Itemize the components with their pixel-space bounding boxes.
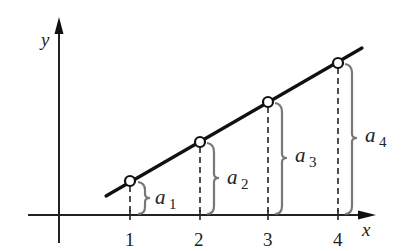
svg-text:a: a xyxy=(155,185,166,209)
arithmetic-sequence-diagram: y x 1 2 3 4 a 1 a xyxy=(0,0,402,251)
svg-text:4: 4 xyxy=(379,134,387,150)
y-axis-label: y xyxy=(39,29,50,50)
x-axis xyxy=(28,211,376,220)
brace-a4 xyxy=(345,64,357,214)
svg-text:1: 1 xyxy=(169,196,177,212)
svg-text:2: 2 xyxy=(241,176,249,192)
brace-a1 xyxy=(138,182,150,214)
svg-text:3: 3 xyxy=(309,154,317,170)
y-axis-arrow-icon xyxy=(55,17,64,34)
svg-text:a: a xyxy=(365,123,376,147)
point-2 xyxy=(195,137,205,147)
x-tick-label-1: 1 xyxy=(125,229,135,250)
x-tick-label-3: 3 xyxy=(263,229,273,250)
x-tick-label-2: 2 xyxy=(194,229,204,250)
svg-text:a: a xyxy=(295,143,306,167)
label-a1: a 1 xyxy=(155,185,177,212)
label-a3: a 3 xyxy=(295,143,317,170)
label-a4: a 4 xyxy=(365,123,387,150)
svg-text:a: a xyxy=(227,165,238,189)
y-axis xyxy=(55,17,64,243)
point-4 xyxy=(333,58,343,68)
x-axis-label: x xyxy=(361,219,371,240)
point-3 xyxy=(263,97,273,107)
label-a2: a 2 xyxy=(227,165,249,192)
brace-a3 xyxy=(275,103,287,214)
x-tick-label-4: 4 xyxy=(333,229,343,250)
brace-a2 xyxy=(207,143,219,214)
point-1 xyxy=(125,176,135,186)
